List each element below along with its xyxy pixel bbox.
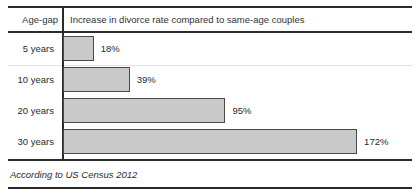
row-category-label: 20 years bbox=[0, 95, 54, 126]
bar bbox=[63, 67, 130, 92]
bar-track: 18% bbox=[63, 33, 420, 64]
bar bbox=[63, 98, 225, 123]
bar-value-label: 172% bbox=[364, 136, 388, 147]
chart-row: 10 years39% bbox=[0, 64, 420, 95]
chart-row: 30 years172% bbox=[0, 126, 420, 157]
bar-track: 95% bbox=[63, 95, 420, 126]
chart-row: 20 years95% bbox=[0, 95, 420, 126]
bar-value-label: 95% bbox=[232, 105, 251, 116]
bar-track: 172% bbox=[63, 126, 420, 157]
row-category-label: 5 years bbox=[0, 33, 54, 64]
bar-value-label: 18% bbox=[101, 43, 120, 54]
table-header-row: Age-gap Increase in divorce rate compare… bbox=[0, 7, 420, 31]
chart-row: 5 years18% bbox=[0, 33, 420, 64]
bar-value-label: 39% bbox=[137, 74, 156, 85]
divorce-rate-bar-chart: Age-gap Increase in divorce rate compare… bbox=[0, 0, 420, 196]
header-measure-label: Increase in divorce rate compared to sam… bbox=[70, 7, 304, 31]
body-bottom-rule bbox=[8, 159, 412, 161]
bar-track: 39% bbox=[63, 64, 420, 95]
row-category-label: 30 years bbox=[0, 126, 54, 157]
chart-footnote: According to US Census 2012 bbox=[10, 163, 137, 186]
bottom-rule bbox=[8, 187, 412, 189]
bar bbox=[63, 129, 357, 154]
row-category-label: 10 years bbox=[0, 64, 54, 95]
header-age-gap-label: Age-gap bbox=[0, 7, 58, 31]
bar bbox=[63, 36, 94, 61]
